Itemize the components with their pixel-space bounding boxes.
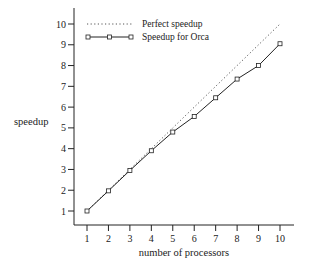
y-tick-label: 9 xyxy=(61,39,66,50)
y-tick-label: 3 xyxy=(61,164,66,175)
x-tick-label: 5 xyxy=(170,233,175,244)
legend-label-speedup-orca: Speedup for Orca xyxy=(142,32,210,42)
x-tick-label: 2 xyxy=(106,233,111,244)
x-tick-label: 3 xyxy=(127,233,132,244)
x-tick-label: 10 xyxy=(275,233,285,244)
data-point-marker xyxy=(171,130,175,134)
y-tick-label: 8 xyxy=(61,60,66,71)
axes: 1234567891012345678910 xyxy=(56,8,294,244)
data-point-marker xyxy=(257,64,261,68)
x-tick-label: 8 xyxy=(235,233,240,244)
data-point-marker xyxy=(106,189,110,193)
square-marker-icon xyxy=(108,35,112,39)
series-line-speedup-for-orca xyxy=(87,44,280,211)
series-layer xyxy=(85,24,282,213)
legend-label-perfect-speedup: Perfect speedup xyxy=(142,19,203,29)
data-point-marker xyxy=(235,77,239,81)
y-axis-label: speedup xyxy=(14,116,48,127)
data-point-marker xyxy=(149,149,153,153)
data-point-marker xyxy=(85,209,89,213)
data-point-marker xyxy=(214,96,218,100)
square-marker-icon xyxy=(129,35,133,39)
x-axis-label: number of processors xyxy=(139,247,229,258)
y-tick-label: 7 xyxy=(61,81,66,92)
x-tick-label: 9 xyxy=(256,233,261,244)
square-marker-icon xyxy=(86,35,90,39)
legend: Perfect speedup Speedup for Orca xyxy=(86,19,210,42)
y-tick-label: 2 xyxy=(61,185,66,196)
x-tick-label: 6 xyxy=(192,233,197,244)
y-tick-label: 10 xyxy=(56,19,66,30)
x-tick-label: 4 xyxy=(149,233,154,244)
data-point-marker xyxy=(192,114,196,118)
data-point-marker xyxy=(128,168,132,172)
y-tick-label: 1 xyxy=(61,206,66,217)
y-tick-label: 4 xyxy=(61,143,66,154)
speedup-chart: 1234567891012345678910 Perfect speedup S… xyxy=(0,0,309,273)
x-tick-label: 1 xyxy=(85,233,90,244)
series-line-perfect-speedup xyxy=(87,24,280,211)
x-tick-label: 7 xyxy=(213,233,218,244)
legend-swatch-speedup-orca xyxy=(86,35,133,39)
y-tick-label: 5 xyxy=(61,122,66,133)
data-point-marker xyxy=(278,42,282,46)
y-tick-label: 6 xyxy=(61,102,66,113)
